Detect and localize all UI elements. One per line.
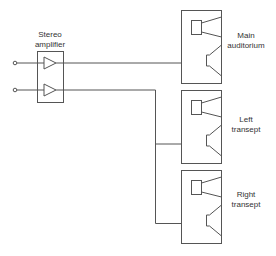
woofer-horn-icon: [207, 125, 222, 156]
input-terminal-2-icon: [13, 88, 17, 92]
amplifier-triangle-1-icon: [44, 57, 56, 69]
right-label-line2: transept: [225, 200, 267, 210]
channel-2-wire: [56, 90, 181, 224]
tweeter-icon: [192, 101, 202, 115]
right-transept-label: Right transept: [225, 190, 267, 210]
left-label-line1: Left: [225, 115, 267, 125]
amplifier-label: Stereo amplifier: [30, 30, 70, 50]
speaker-distribution-diagram: Stereo amplifier Main auditorium Left tr…: [0, 0, 276, 256]
woofer-horn-icon: [207, 45, 222, 76]
amplifier-triangle-2-icon: [44, 84, 56, 96]
main-auditorium-label: Main auditorium: [225, 31, 267, 51]
right-label-line1: Right: [225, 190, 267, 200]
speaker-cabinet-left-transept: [182, 91, 222, 164]
amplifier-label-line1: Stereo: [30, 30, 70, 40]
main-label-line1: Main: [225, 31, 267, 41]
main-label-line2: auditorium: [225, 41, 267, 51]
tweeter-icon: [192, 181, 202, 195]
input-terminal-1-icon: [13, 61, 17, 65]
speaker-cabinet-main: [182, 11, 222, 84]
amplifier-box: [38, 52, 64, 103]
speaker-cabinet-right-transept: [182, 171, 222, 244]
woofer-horn-icon: [207, 205, 222, 236]
left-transept-label: Left transept: [225, 115, 267, 135]
amplifier-label-line2: amplifier: [30, 40, 70, 50]
left-label-line2: transept: [225, 125, 267, 135]
tweeter-icon: [192, 21, 202, 35]
